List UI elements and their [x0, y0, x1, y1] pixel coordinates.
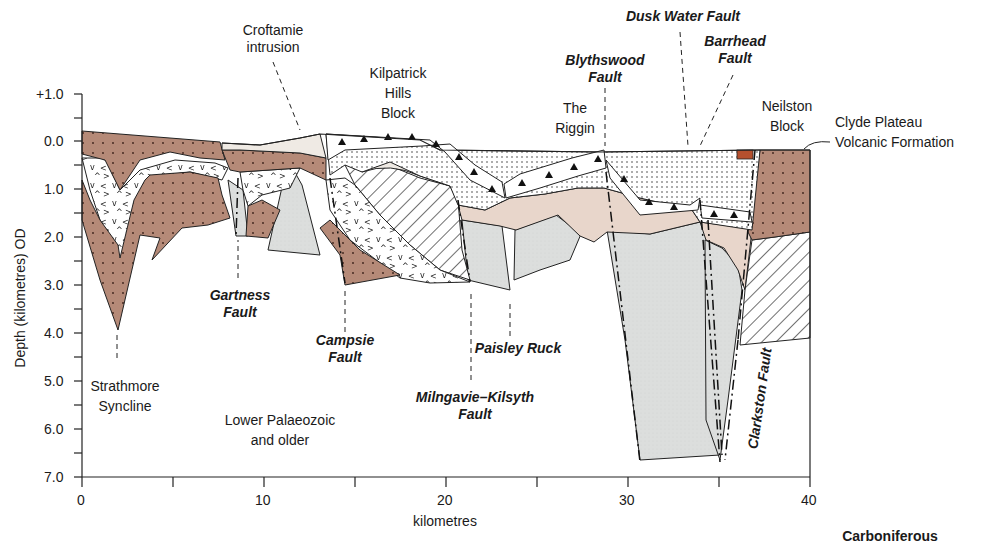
x-tick: 20: [437, 492, 453, 508]
y-tick: 5.0: [44, 373, 63, 389]
label-barrhead-fault: Barrhead Fault: [695, 33, 775, 67]
y-tick: 7.0: [44, 469, 63, 485]
label-blythswood-fault: Blythswood Fault: [555, 52, 655, 86]
label-milngavie-kilsyth-fault: Milngavie–Kilsyth Fault: [400, 389, 550, 423]
cross-section-svg: v < ^ >: [0, 0, 990, 544]
red-block: [737, 150, 753, 159]
label-croftamie: Croftamie intrusion: [228, 22, 318, 56]
geological-cross-section: v < ^ >: [0, 0, 990, 544]
y-tick: 6.0: [44, 421, 63, 437]
x-axis-title: kilometres: [405, 513, 485, 530]
y-tick: 4.0: [44, 325, 63, 341]
label-riggin: The Riggin: [545, 98, 605, 138]
y-tick: 0.0: [44, 133, 63, 149]
clyde-pointer: [804, 142, 830, 149]
label-dusk-water-fault: Dusk Water Fault: [608, 8, 758, 25]
x-tick: 10: [255, 492, 271, 508]
hatched-unit-neilston: [740, 232, 810, 345]
label-clyde-plateau: Clyde Plateau Volcanic Formation: [835, 112, 985, 152]
label-kilpatrick: Kilpatrick Hills Block: [358, 63, 438, 123]
label-campsie-fault: Campsie Fault: [305, 332, 385, 366]
x-tick: 0: [77, 492, 85, 508]
carboniferous-caption: Carboniferous: [830, 528, 950, 544]
label-neilston: Neilston Block: [752, 96, 822, 136]
y-tick: 2.0: [44, 229, 63, 245]
label-gartness-fault: Gartness Fault: [195, 287, 285, 321]
y-tick: 3.0: [44, 277, 63, 293]
y-tick: +1.0: [36, 86, 64, 102]
label-strathmore: Strathmore Syncline: [80, 376, 170, 416]
y-axis-title: Depth (kilometres) OD: [12, 223, 28, 373]
x-tick: 30: [619, 492, 635, 508]
label-lower-palaeozoic: Lower Palaeozoic and older: [210, 410, 350, 450]
label-paisley-ruck: Paisley Ruck: [468, 340, 568, 357]
x-tick: 40: [801, 492, 817, 508]
y-tick: 1.0: [44, 181, 63, 197]
